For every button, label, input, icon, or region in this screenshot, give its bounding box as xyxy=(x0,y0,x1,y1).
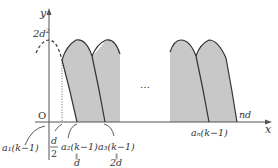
y-tick-label: 2d2 xyxy=(32,27,50,39)
origin-label: O xyxy=(38,110,46,121)
diagram: y x O 2d2 … a₁(k−1) d 2 a₂(k−1) ‖ d a₃(k… xyxy=(0,0,278,168)
label-half-num: d xyxy=(51,135,57,146)
label-half-den: 2 xyxy=(51,148,57,159)
x-axis-label: x xyxy=(265,123,272,136)
label-a2-val: d xyxy=(74,157,80,168)
label-an: aₙ(k−1) xyxy=(191,127,228,138)
label-a1: a₁(k−1) xyxy=(2,142,39,153)
leader-a2 xyxy=(68,124,77,138)
label-a3-val: 2d xyxy=(109,157,122,168)
y-axis-arrow-icon xyxy=(47,8,52,15)
leader-a3 xyxy=(104,124,114,136)
label-a3: a₃(k−1) xyxy=(98,141,135,152)
label-nd: nd xyxy=(239,109,251,120)
y-axis-label: y xyxy=(39,7,47,20)
leader-d2 xyxy=(55,124,62,131)
label-a2: a₂(k−1) xyxy=(61,141,98,152)
ellipsis: … xyxy=(140,79,150,90)
shaded-region-right xyxy=(170,40,237,122)
